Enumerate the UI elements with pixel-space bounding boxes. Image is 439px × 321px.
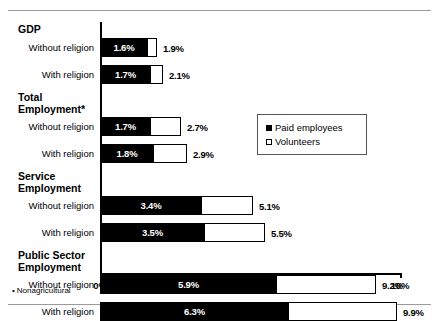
top-divider-rule [8, 10, 431, 11]
bar-row-label: Without religion [8, 200, 94, 211]
bar-total-label: 9.9% [403, 306, 424, 317]
bar-row-label: With religion [8, 69, 94, 80]
bar-row-label: With religion [8, 148, 94, 159]
stacked-bar: 5.9% [100, 275, 376, 294]
footnote-text: Nonagricultural [17, 286, 71, 295]
stacked-bar: 1.7% [100, 117, 181, 136]
bar-segment-paid-employees: 5.9% [100, 275, 277, 294]
bar-segment-paid-employees: 3.5% [100, 223, 205, 242]
stacked-bar: 6.3% [100, 302, 397, 321]
bar-row-label: Without religion [8, 42, 94, 53]
bar-segment-paid-employees: 1.6% [100, 38, 148, 57]
bar-row-label: With religion [8, 306, 94, 317]
stacked-bar: 1.6% [100, 38, 157, 57]
bar-value-label-paid: 1.6% [114, 42, 135, 53]
bar-value-label-paid: 1.8% [117, 148, 138, 159]
group-label: GDP [18, 24, 94, 36]
bar-segment-paid-employees: 1.7% [100, 65, 151, 84]
bar-segment-volunteers [154, 144, 187, 163]
bar-segment-paid-employees: 1.8% [100, 144, 154, 163]
stacked-bar: 1.7% [100, 65, 163, 84]
bar-value-label-paid: 3.5% [142, 227, 163, 238]
legend-label-paid-employees: Paid employees [275, 121, 343, 134]
bar-row-label: Without religion [8, 121, 94, 132]
legend-item-paid-employees: Paid employees [266, 121, 360, 134]
bar-value-label-paid: 3.4% [141, 200, 162, 211]
bar-total-label: 2.1% [169, 69, 190, 80]
bar-segment-paid-employees: 1.7% [100, 117, 151, 136]
bar-value-label-paid: 5.9% [178, 279, 199, 290]
stacked-bar-chart: 0%2%4%6%8%10% GDPWithout religionWith re… [0, 14, 439, 300]
bar-segment-volunteers [289, 302, 397, 321]
bar-segment-volunteers [277, 275, 376, 294]
x-axis-tick [400, 273, 402, 278]
legend-swatch-filled-icon [266, 125, 272, 131]
bar-segment-volunteers [205, 223, 265, 242]
legend-item-volunteers: Volunteers [266, 135, 360, 148]
bar-total-label: 9.2% [382, 279, 403, 290]
bar-total-label: 5.1% [259, 200, 280, 211]
legend-label-volunteers: Volunteers [275, 135, 320, 148]
bar-value-label-paid: 1.7% [115, 121, 136, 132]
bar-segment-paid-employees: 3.4% [100, 196, 202, 215]
group-label: Service Employment [18, 171, 94, 194]
chart-legend: Paid employees Volunteers [257, 114, 367, 155]
group-label: Public Sector Employment [18, 250, 94, 273]
footnote: •Nonagricultural [12, 286, 71, 295]
bar-total-label: 1.9% [163, 42, 184, 53]
footnote-marker-icon: • [12, 286, 15, 295]
bar-total-label: 2.7% [187, 121, 208, 132]
bar-segment-volunteers [151, 117, 181, 136]
stacked-bar: 3.5% [100, 223, 265, 242]
bar-row-label: With religion [8, 227, 94, 238]
stacked-bar: 1.8% [100, 144, 187, 163]
group-label: Total Employment* [18, 92, 94, 115]
bar-segment-volunteers [151, 65, 163, 84]
bar-total-label: 2.9% [193, 148, 214, 159]
bar-total-label: 5.5% [271, 227, 292, 238]
stacked-bar: 3.4% [100, 196, 253, 215]
legend-swatch-hollow-icon [266, 139, 272, 145]
bar-segment-volunteers [148, 38, 157, 57]
bar-segment-volunteers [202, 196, 253, 215]
bar-value-label-paid: 6.3% [184, 306, 205, 317]
bar-value-label-paid: 1.7% [115, 69, 136, 80]
bar-segment-paid-employees: 6.3% [100, 302, 289, 321]
